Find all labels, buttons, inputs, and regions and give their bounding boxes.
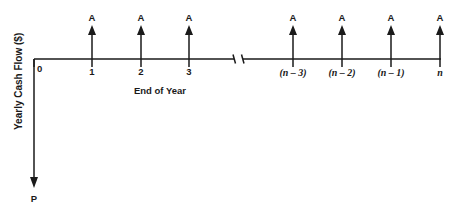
- tick-label-3: 3: [186, 66, 191, 77]
- inflow-arrow-year-n-minus-3: A: [289, 12, 297, 59]
- inflow-label-year-2: A: [138, 12, 145, 23]
- inflow-arrow-year-n: A: [436, 12, 444, 59]
- inflow-arrow-year-n-minus-2: A: [338, 12, 346, 59]
- x-axis-label-text: End of Year: [134, 85, 186, 96]
- tick-label-1: 1: [89, 66, 95, 77]
- inflow-arrow-year-1: A: [88, 12, 96, 59]
- axis-tick-marks: [34, 59, 440, 67]
- cash-flow-diagram: Yearly Cash Flow ($) 0 1 2 3: [0, 0, 467, 220]
- arrow-head-up-icon: [436, 25, 444, 35]
- arrow-head-down-icon: [30, 177, 38, 188]
- arrow-head-up-icon: [338, 25, 346, 35]
- inflow-label-year-1: A: [89, 12, 96, 23]
- tick-label-n-minus-1: (n – 1): [377, 67, 404, 79]
- inflow-label-year-n-minus-3: A: [290, 12, 297, 23]
- inflow-label-year-n-minus-2: A: [339, 12, 346, 23]
- y-axis-label-text: Yearly Cash Flow ($): [13, 33, 24, 130]
- tick-label-n: n: [437, 67, 443, 78]
- inflow-arrow-year-n-minus-1: A: [387, 12, 395, 59]
- cash-flow-diagram-canvas: Yearly Cash Flow ($) 0 1 2 3: [0, 0, 467, 220]
- arrow-head-up-icon: [185, 25, 193, 35]
- inflow-label-year-3: A: [186, 12, 193, 23]
- axis-break-icon: [233, 55, 244, 64]
- inflow-label-year-n-minus-1: A: [388, 12, 395, 23]
- outflow-label-year-0: P: [31, 193, 38, 204]
- arrow-head-up-icon: [289, 25, 297, 35]
- axis-tick-labels: 0 1 2 3 (n – 3) (n – 2) (n – 1) n: [37, 63, 443, 79]
- tick-label-n-minus-3: (n – 3): [279, 67, 306, 79]
- arrow-head-up-icon: [387, 25, 395, 35]
- inflow-arrow-year-3: A: [185, 12, 193, 59]
- tick-label-0: 0: [37, 63, 42, 74]
- tick-label-n-minus-2: (n – 2): [328, 67, 355, 79]
- outflow-arrow-year-0: P: [30, 59, 38, 204]
- y-axis-label: Yearly Cash Flow ($): [13, 33, 24, 130]
- arrow-head-up-icon: [137, 25, 145, 35]
- tick-label-2: 2: [138, 66, 143, 77]
- inflow-label-year-n: A: [437, 12, 444, 23]
- inflow-arrow-year-2: A: [137, 12, 145, 59]
- arrow-head-up-icon: [88, 25, 96, 35]
